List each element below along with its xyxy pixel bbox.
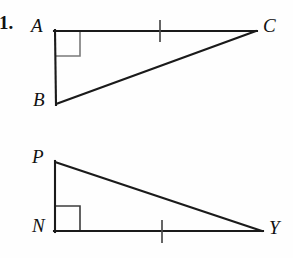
right-angle-marker-a [55,31,80,56]
vertex-label-n: N [32,216,45,235]
vertex-label-p: P [32,147,44,166]
vertex-label-b: B [33,90,45,109]
right-angle-marker-n [55,206,80,231]
problem-number: 1. [0,13,13,32]
vertex-label-a: A [31,16,43,35]
figure-canvas: 1. A B C P N Y [0,0,293,258]
segment-bc [56,31,256,104]
segment-ab [55,30,56,105]
segment-py [55,162,262,231]
triangle-abc [54,20,257,105]
vertex-label-y: Y [269,218,280,237]
vertex-label-c: C [263,16,276,35]
triangle-pny [54,161,263,243]
